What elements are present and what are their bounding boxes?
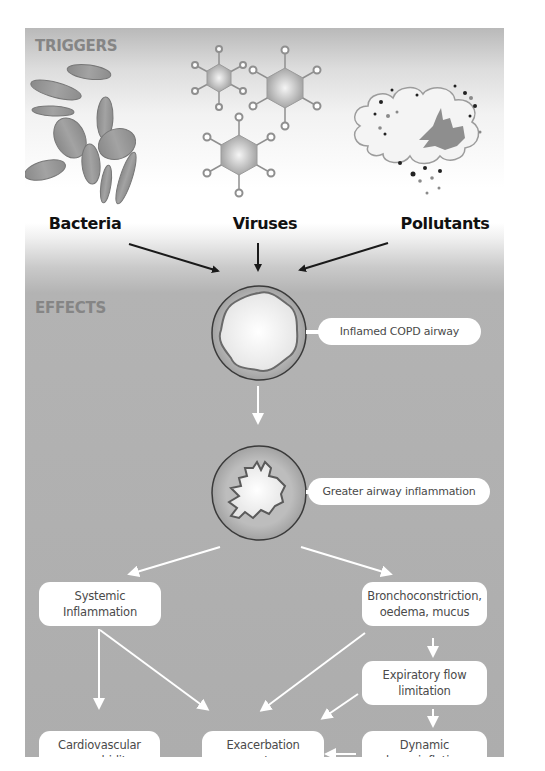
box-cardiovascular-comorbidity: Cardiovascular comorbidity bbox=[39, 731, 160, 757]
label-text: Inflamed COPD airway bbox=[340, 325, 459, 338]
constricted-airway-icon bbox=[25, 28, 504, 757]
box-bronchoconstriction: Bronchoconstriction, oedema, mucus bbox=[362, 582, 487, 626]
label-text: Greater airway inflammation bbox=[322, 485, 475, 498]
label-greater-airway-inflammation: Greater airway inflammation bbox=[308, 478, 490, 505]
box-expiratory-flow-limitation: Expiratory flow limitation bbox=[362, 661, 487, 705]
diagram-panel: TRIGGERS EFFECTS bbox=[25, 28, 504, 757]
box-exacerbation-symptoms: Exacerbation symptoms bbox=[202, 731, 324, 757]
box-systemic-inflammation: Systemic Inflammation bbox=[39, 582, 161, 626]
label-inflamed-copd-airway: Inflamed COPD airway bbox=[318, 318, 481, 345]
box-dynamic-hyperinflation: Dynamic hyperinflation bbox=[362, 731, 487, 757]
